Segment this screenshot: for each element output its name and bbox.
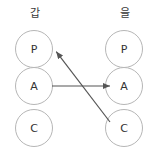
- diagram-canvas: 갑 을 P A C P A C: [0, 0, 159, 158]
- arrow-right-c-to-left-p: [56, 52, 110, 122]
- arrow-layer: [0, 0, 159, 158]
